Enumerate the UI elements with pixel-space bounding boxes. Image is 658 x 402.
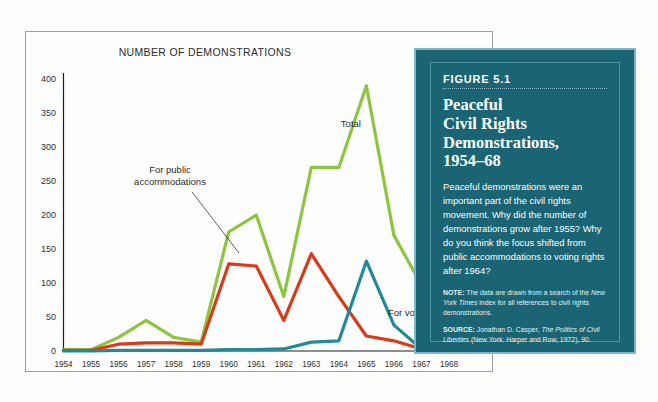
figure-caption-box: FIGURE 5.1 Peaceful Civil Rights Demonst…: [414, 48, 636, 354]
x-tick-1962: 1962: [275, 360, 294, 369]
figure-note: NOTE: The data are drawn from a search o…: [443, 288, 607, 319]
y-tick-0: 0: [51, 346, 56, 356]
figure-title-line-4: 1954–68: [443, 151, 501, 170]
figure-title-line-3: Demonstrations,: [443, 133, 559, 152]
y-tick-300: 300: [41, 142, 56, 152]
annotation-leader-line: [192, 192, 239, 253]
source-label: SOURCE:: [443, 326, 475, 333]
figure-divider: [443, 88, 607, 89]
x-tick-1960: 1960: [220, 360, 239, 369]
y-tick-250: 250: [41, 176, 56, 186]
figure-title: Peaceful Civil Rights Demonstrations, 19…: [443, 96, 607, 171]
series-label-total: Total: [341, 118, 361, 129]
x-tick-1965: 1965: [357, 360, 376, 369]
x-tick-1966: 1966: [385, 360, 404, 369]
x-tick-1961: 1961: [247, 360, 266, 369]
series-label-public-accommodations-line1: For public: [149, 164, 191, 175]
figure-source: SOURCE: Jonathan D. Casper, The Politics…: [443, 325, 607, 345]
figure-body-text: Peaceful demonstrations were an importan…: [443, 180, 607, 277]
x-tick-1964: 1964: [330, 360, 349, 369]
x-tick-1956: 1956: [109, 360, 128, 369]
source-text-2: (New York: Harper and Row, 1972), 90.: [469, 336, 591, 343]
series-label-public-accommodations-line2: accommodations: [134, 176, 206, 187]
y-tick-150: 150: [41, 244, 56, 254]
note-label: NOTE:: [443, 289, 464, 296]
note-text-1: The data are drawn from a search of the: [464, 289, 591, 296]
x-tick-1955: 1955: [82, 360, 101, 369]
y-tick-350: 350: [41, 108, 56, 118]
y-tick-200: 200: [41, 210, 56, 220]
figure-title-line-2: Civil Rights: [443, 114, 527, 133]
x-tick-1954: 1954: [54, 360, 73, 369]
x-tick-1957: 1957: [137, 360, 156, 369]
x-tick-1967: 1967: [412, 360, 431, 369]
x-tick-1958: 1958: [165, 360, 184, 369]
x-tick-1963: 1963: [302, 360, 321, 369]
figure-page: NUMBER OF DEMONSTRATIONS 050100150200250…: [0, 0, 658, 402]
figure-caption-inner-border: FIGURE 5.1 Peaceful Civil Rights Demonst…: [430, 62, 620, 342]
figure-title-line-1: Peaceful: [443, 95, 503, 114]
y-tick-50: 50: [46, 312, 56, 322]
x-tick-1968: 1968: [440, 360, 459, 369]
figure-number: FIGURE 5.1: [443, 73, 607, 85]
y-tick-100: 100: [41, 278, 56, 288]
x-axis-tick-labels: 1954195519561957195819591960196119621963…: [54, 360, 458, 369]
y-axis-tick-labels: 050100150200250300350400: [41, 74, 56, 356]
y-tick-400: 400: [41, 74, 56, 84]
x-tick-1959: 1959: [192, 360, 211, 369]
source-text-1: Jonathan D. Casper,: [475, 326, 542, 333]
